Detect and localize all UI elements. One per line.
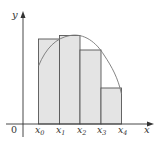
- label-x0: x0: [35, 124, 45, 137]
- x-axis-label: x: [144, 124, 150, 135]
- rectangle-4: [101, 88, 122, 124]
- y-axis-label: y: [11, 9, 18, 20]
- origin-label: 0: [11, 124, 17, 135]
- label-x3: x3: [97, 124, 107, 137]
- riemann-sum-diagram: y x 0 x0 x1 x2 x3 x4: [0, 0, 165, 143]
- label-x4: x4: [118, 124, 128, 137]
- label-x1: x1: [56, 124, 66, 137]
- rectangle-3: [80, 50, 101, 124]
- rectangles: [39, 36, 122, 125]
- partition-labels: x0 x1 x2 x3 x4: [35, 124, 128, 137]
- diagram-canvas: y x 0 x0 x1 x2 x3 x4: [0, 0, 165, 143]
- label-x2: x2: [77, 124, 87, 137]
- y-axis-arrow-icon: [21, 11, 26, 18]
- rectangle-1: [39, 39, 60, 124]
- rectangle-2: [60, 36, 81, 125]
